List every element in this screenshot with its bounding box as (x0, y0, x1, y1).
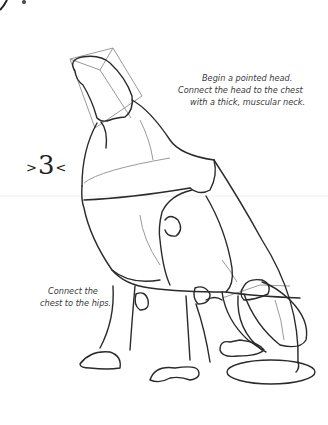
caption-line: Connect the (40, 285, 111, 297)
step-left-mark: > (26, 160, 38, 175)
caption-line: Connect the head to the chest (178, 84, 305, 96)
caption-line: with a thick, muscular neck. (188, 96, 305, 108)
head-instruction-caption: Begin a pointed head. Connect the head t… (188, 72, 305, 108)
step-digit: 3 (38, 150, 56, 180)
top-corner-stroke (0, 0, 7, 10)
caption-line: Begin a pointed head. (188, 72, 305, 84)
step-right-mark: < (55, 160, 67, 175)
caption-line: chest to the hips. (40, 297, 111, 309)
sketch-illustration (0, 0, 328, 425)
hips-instruction-caption: Connect the chest to the hips. (40, 285, 111, 309)
step-number: >3< (26, 150, 67, 180)
